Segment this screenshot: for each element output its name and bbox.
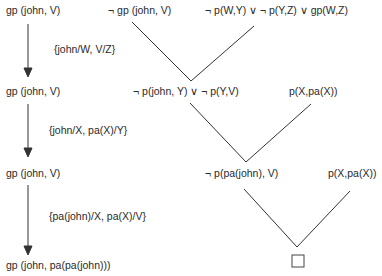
arrow-head-2-icon: [24, 148, 32, 157]
resolution-v-2: [190, 103, 311, 162]
clause-row1-left: ¬ gp (john, V): [108, 4, 171, 16]
arrow-head-3-icon: [24, 246, 32, 255]
empty-clause-box-icon: [292, 255, 304, 267]
goal-step-2: gp (john, V): [6, 85, 60, 97]
clause-row2-left: ¬ p(john, Y) ∨ ¬ p(Y,V): [133, 85, 239, 97]
substitution-2: {john/X, pa(X)/Y}: [49, 124, 127, 136]
resolution-lines: [0, 0, 382, 276]
arrow-head-1-icon: [24, 68, 32, 77]
substitution-1: {john/W, V/Z}: [54, 43, 115, 55]
resolution-v-1: [132, 22, 254, 81]
clause-row2-right: p(X,pa(X)): [289, 85, 337, 97]
goal-step-1: gp (john, V): [6, 4, 60, 16]
clause-row1-right: ¬ p(W,Y) ∨ ¬ p(Y,Z) ∨ gp(W,Z): [205, 4, 348, 16]
goal-step-3: gp (john, V): [6, 167, 60, 179]
substitution-3: {pa(john)/X, pa(X)/V}: [49, 210, 146, 222]
clause-row3-right: p(X,pa(X)): [328, 167, 376, 179]
goal-step-final: gp (john, pa(pa(john))): [6, 259, 110, 271]
clause-row3-left: ¬ p(pa(john), V): [205, 167, 278, 179]
resolution-v-3: [244, 189, 350, 247]
